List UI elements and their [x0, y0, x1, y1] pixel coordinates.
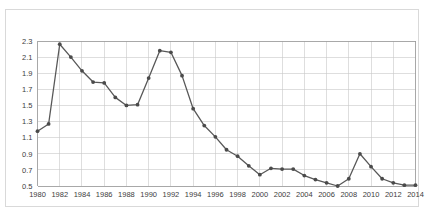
- series-data-point: [136, 103, 140, 107]
- x-axis-tick-label: 1980: [29, 190, 46, 199]
- x-axis-tick-label: 2008: [340, 190, 357, 199]
- x-axis-tick-label: 1984: [74, 190, 91, 199]
- y-axis-tick-label: 2.3: [22, 37, 32, 46]
- series-data-point: [414, 183, 418, 187]
- series-data-point: [202, 124, 206, 128]
- plot-area-wrapper: 0.50.70.91.11.31.51.71.92.12.31980198219…: [0, 0, 425, 216]
- x-axis-tick-label: 2014: [407, 190, 424, 199]
- y-axis-tick-label: 1.7: [22, 85, 32, 94]
- series-data-point: [369, 165, 373, 169]
- y-axis-tick-label: 2.1: [22, 53, 32, 62]
- series-data-point: [91, 80, 95, 84]
- series-data-point: [236, 154, 240, 158]
- series-data-point: [125, 104, 129, 108]
- chart-canvas: 0.50.70.91.11.31.51.71.92.12.31980198219…: [0, 0, 425, 216]
- series-data-point: [291, 167, 295, 171]
- x-axis-tick-label: 1996: [207, 190, 224, 199]
- series-data-point: [314, 178, 318, 182]
- x-axis-tick-label: 2004: [296, 190, 313, 199]
- y-axis-tick-label: 1.1: [22, 133, 32, 142]
- series-data-point: [247, 164, 251, 168]
- series-data-point: [391, 181, 395, 185]
- x-axis-tick-label: 1988: [118, 190, 135, 199]
- series-data-point: [47, 122, 51, 126]
- series-data-point: [102, 81, 106, 85]
- y-axis-tick-label: 1.3: [22, 117, 32, 126]
- series-data-point: [169, 50, 173, 54]
- x-axis-tick-label: 2006: [318, 190, 335, 199]
- series-data-point: [225, 148, 229, 152]
- line-chart-figure: 0.50.70.91.11.31.51.71.92.12.31980198219…: [0, 0, 425, 216]
- series-data-point: [113, 95, 117, 99]
- series-data-point: [191, 107, 195, 111]
- series-data-point: [80, 69, 84, 73]
- y-axis-tick-label: 0.9: [22, 150, 32, 159]
- x-axis-tick-label: 2000: [252, 190, 269, 199]
- series-data-point: [147, 76, 151, 80]
- series-data-point: [158, 49, 162, 53]
- series-data-point: [402, 183, 406, 187]
- series-data-point: [325, 181, 329, 185]
- x-axis-tick-label: 2010: [363, 190, 380, 199]
- series-data-point: [58, 42, 62, 46]
- series-data-point: [213, 135, 217, 139]
- series-data-point: [336, 184, 340, 188]
- series-data-point: [269, 166, 273, 170]
- series-data-point: [280, 167, 284, 171]
- x-axis-tick-label: 2012: [385, 190, 402, 199]
- x-axis-tick-label: 1990: [140, 190, 157, 199]
- x-axis-tick-label: 1986: [96, 190, 113, 199]
- series-data-point: [180, 74, 184, 78]
- series-data-point: [36, 129, 40, 133]
- series-data-point: [380, 177, 384, 181]
- x-axis-tick-label: 1982: [51, 190, 68, 199]
- series-data-point: [358, 152, 362, 156]
- y-axis-tick-label: 1.5: [22, 101, 32, 110]
- series-data-point: [258, 173, 262, 177]
- series-data-point: [69, 55, 73, 59]
- x-axis-tick-label: 1994: [185, 190, 202, 199]
- plot-background: [38, 41, 416, 186]
- x-axis-tick-label: 2002: [274, 190, 291, 199]
- series-data-point: [302, 174, 306, 178]
- x-axis-tick-label: 1998: [229, 190, 246, 199]
- series-data-point: [347, 177, 351, 181]
- y-axis-tick-label: 0.7: [22, 166, 32, 175]
- x-axis-tick-label: 1992: [163, 190, 180, 199]
- y-axis-tick-label: 1.9: [22, 69, 32, 78]
